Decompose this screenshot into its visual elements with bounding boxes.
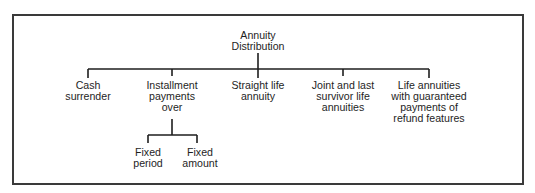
node-fixed-period: Fixed period — [133, 147, 162, 169]
node-joint-last-survivor: Joint and last survivor life annuities — [312, 80, 374, 113]
node-line: annuities — [312, 102, 374, 113]
node-line: over — [146, 102, 197, 113]
node-line: refund features — [391, 113, 466, 124]
node-cash-surrender: Cash surrender — [65, 80, 110, 102]
node-line: annuity — [232, 91, 285, 102]
node-line: amount — [182, 158, 217, 169]
node-annuity-distribution: Annuity Distribution — [232, 30, 285, 52]
node-life-annuities-guaranteed: Life annuities with guaranteed payments … — [391, 80, 466, 124]
node-line: Distribution — [232, 41, 285, 52]
node-fixed-amount: Fixed amount — [182, 147, 217, 169]
node-straight-life-annuity: Straight life annuity — [232, 80, 285, 102]
node-line: period — [133, 158, 162, 169]
node-line: surrender — [65, 91, 110, 102]
node-installment-payments: Installment payments over — [146, 80, 197, 113]
